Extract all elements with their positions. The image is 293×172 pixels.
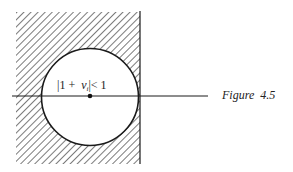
stability-region-diagram: |1 + vi|< 1 (0, 0, 293, 172)
region-label: |1 + vi|< 1 (57, 78, 107, 93)
center-point (88, 94, 93, 99)
figure-caption: Figure 4.5 (222, 88, 275, 103)
